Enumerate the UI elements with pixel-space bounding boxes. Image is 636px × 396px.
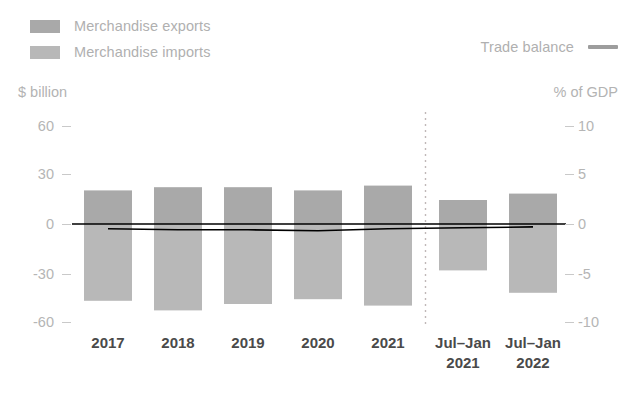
bar-export-2018: [154, 187, 202, 224]
y-tick-right-0: 0: [578, 216, 628, 232]
y-tick-right-10: 10: [578, 118, 628, 134]
right-axis-unit: % of GDP: [554, 84, 618, 100]
legend-label-imports: Merchandise imports: [74, 44, 210, 60]
bar-export-Jul-Jan 2021: [439, 200, 487, 224]
y-tick-left-m60: -60: [8, 314, 54, 330]
y-tick-right-5: 5: [578, 166, 628, 182]
bar-import-2019: [224, 224, 272, 304]
chart-figure: Merchandise exports Merchandise imports …: [0, 0, 636, 396]
y-tick-left-m30: -30: [8, 266, 54, 282]
plot-svg: [0, 110, 636, 330]
bar-import-2021: [364, 224, 412, 306]
y-tick-left-0: 0: [8, 216, 54, 232]
bar-import-2020: [294, 224, 342, 299]
left-axis-unit: $ billion: [18, 84, 67, 100]
y-tick-right-m5: -5: [578, 266, 628, 282]
bar-export-2019: [224, 187, 272, 224]
y-tick-dash-left-60: [62, 126, 71, 127]
legend-left: Merchandise exports Merchandise imports: [30, 13, 330, 65]
plot-area: 60 30 0 -30 -60 10 5 0 -5 -10: [0, 110, 636, 330]
y-tick-dash-right-10: [565, 126, 574, 127]
y-tick-left-30: 30: [8, 166, 54, 182]
y-tick-dash-right-0: [565, 224, 574, 225]
bar-import-2017: [84, 224, 132, 301]
y-tick-dash-left-30: [62, 174, 71, 175]
legend-swatch-exports-icon: [30, 20, 60, 33]
bar-export-2021: [364, 186, 412, 224]
legend-item-trade-balance: Trade balance: [481, 39, 618, 55]
bar-export-2017: [84, 190, 132, 224]
y-tick-dash-left-0: [62, 224, 71, 225]
legend-label-exports: Merchandise exports: [74, 18, 211, 34]
bars-imports-group: [84, 224, 557, 310]
y-tick-left-60: 60: [8, 118, 54, 134]
bar-import-2018: [154, 224, 202, 310]
y-tick-dash-left-m30: [62, 274, 71, 275]
y-tick-right-m10: -10: [578, 314, 628, 330]
x-label-Jul-Jan-2022: Jul–Jan2022: [488, 333, 578, 373]
x-axis-category-labels: 20172018201920202021Jul–Jan2021Jul–Jan20…: [0, 333, 636, 393]
legend-swatch-imports-icon: [30, 46, 60, 59]
y-tick-dash-right-5: [565, 174, 574, 175]
bar-export-2020: [294, 190, 342, 224]
legend-item-exports: Merchandise exports: [30, 13, 330, 39]
legend-label-trade-balance: Trade balance: [481, 39, 574, 55]
y-tick-dash-left-m60: [62, 322, 71, 323]
legend-item-imports: Merchandise imports: [30, 39, 330, 65]
bar-export-Jul-Jan 2022: [509, 194, 557, 224]
bars-exports-group: [84, 186, 557, 224]
bar-import-Jul-Jan 2022: [509, 224, 557, 293]
y-tick-dash-right-m10: [565, 322, 574, 323]
bar-import-Jul-Jan 2021: [439, 224, 487, 270]
legend-line-marker-icon: [588, 45, 618, 49]
y-tick-dash-right-m5: [565, 274, 574, 275]
